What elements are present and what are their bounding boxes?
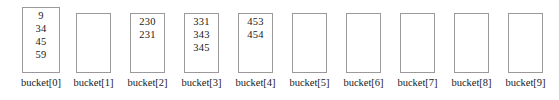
bucket-box [454,13,489,73]
bucket-1: bucket[1] [76,0,111,100]
bucket-label: bucket[0] [14,76,68,89]
bucket-label: bucket[9] [500,76,551,89]
bucket-box [346,13,381,73]
bucket-label: bucket[5] [284,76,335,89]
bucket-value: 345 [184,41,219,54]
bucket-value: 230 [130,15,165,28]
bucket-6: bucket[6] [346,0,381,100]
bucket-values: 230231 [130,15,165,41]
bucket-2: 230231bucket[2] [130,0,165,100]
bucket-label: bucket[6] [338,76,389,89]
bucket-values: 9344559 [22,9,60,61]
bucket-box [400,13,435,73]
bucket-value: 231 [130,28,165,41]
bucket-0: 9344559bucket[0] [22,0,60,100]
bucket-label: bucket[2] [122,76,173,89]
bucket-label: bucket[3] [176,76,227,89]
bucket-value: 453 [238,15,273,28]
bucket-box [292,13,327,73]
bucket-5: bucket[5] [292,0,327,100]
bucket-value: 45 [22,35,60,48]
bucket-value: 59 [22,48,60,61]
bucket-label: bucket[8] [446,76,497,89]
bucket-value: 343 [184,28,219,41]
bucket-label: bucket[7] [392,76,443,89]
bucket-3: 331343345bucket[3] [184,0,219,100]
bucket-value: 454 [238,28,273,41]
bucket-8: bucket[8] [454,0,489,100]
bucket-value: 34 [22,22,60,35]
bucket-values: 453454 [238,15,273,41]
bucket-array-diagram: 9344559bucket[0]bucket[1]230231bucket[2]… [0,0,559,100]
bucket-values: 331343345 [184,15,219,54]
bucket-9: bucket[9] [508,0,543,100]
bucket-value: 331 [184,15,219,28]
bucket-label: bucket[1] [68,76,119,89]
bucket-box [508,13,543,73]
bucket-value: 9 [22,9,60,22]
bucket-label: bucket[4] [230,76,281,89]
bucket-box [76,13,111,73]
bucket-7: bucket[7] [400,0,435,100]
bucket-4: 453454bucket[4] [238,0,273,100]
